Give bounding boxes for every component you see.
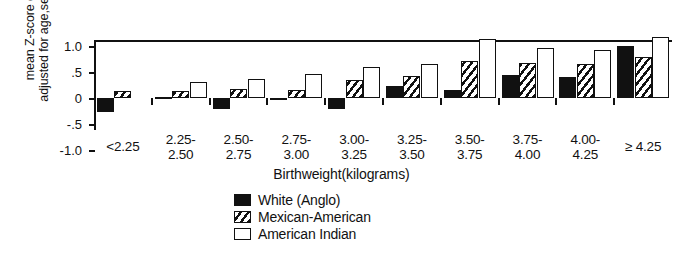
bar-american-indian xyxy=(594,50,611,98)
x-axis-tick-label: 3.75-4.00 xyxy=(499,133,557,162)
legend-swatch-white-anglo xyxy=(234,194,251,206)
x-axis-tick-label-line-2: 4.25 xyxy=(556,148,614,163)
legend-item-mexican-american: Mexican-American xyxy=(234,209,371,225)
legend-label-white-anglo: White (Anglo) xyxy=(258,193,340,207)
bar-white-anglo xyxy=(386,86,403,98)
bar-mexican-american xyxy=(230,89,247,98)
x-axis-tick-label-line-2: 3.00 xyxy=(267,148,325,163)
y-axis-tick-label: -.5 xyxy=(67,118,82,131)
chart-legend: White (Anglo)Mexican-AmericanAmerican In… xyxy=(234,192,371,242)
bar-white-anglo xyxy=(155,97,172,99)
bar-american-indian xyxy=(248,79,265,98)
bar-mexican-american xyxy=(288,90,305,98)
plot-area: 1.0.50-.5-1.0 xyxy=(94,40,672,130)
y-axis-line xyxy=(94,40,96,130)
bar-white-anglo xyxy=(617,46,634,98)
x-axis-tick-label: 2.25-2.50 xyxy=(152,133,210,162)
bar-white-anglo xyxy=(270,98,287,100)
bar-mexican-american xyxy=(519,63,536,98)
x-axis-tick-label-line-1: 3.50- xyxy=(441,133,499,148)
y-axis-tick: 1.0 xyxy=(89,46,95,48)
group-separator-tick xyxy=(440,98,442,105)
x-axis-tick-label-line-2: 3.50 xyxy=(383,148,441,163)
x-axis-tick-label-line-1: 2.75- xyxy=(267,133,325,148)
bar-american-indian xyxy=(652,37,669,98)
x-axis-tick-label-line-2: 3.25 xyxy=(325,148,383,163)
bar-mexican-american xyxy=(577,64,594,98)
bar-white-anglo xyxy=(328,98,345,109)
x-axis-tick-label: <2.25 xyxy=(94,140,152,155)
bar-american-indian xyxy=(479,39,496,98)
x-axis-tick-label-line-2: 3.75 xyxy=(441,148,499,163)
bar-white-anglo xyxy=(444,90,461,98)
bar-american-indian xyxy=(537,48,554,98)
x-axis-title: Birthweight(kilograms) xyxy=(0,166,683,182)
group-separator-tick xyxy=(209,98,211,105)
y-axis-tick-label: 1.0 xyxy=(64,40,82,53)
bar-white-anglo xyxy=(559,77,576,98)
bar-american-indian xyxy=(190,82,207,98)
legend-swatch-mexican-american xyxy=(234,211,251,223)
legend-item-white-anglo: White (Anglo) xyxy=(234,192,371,208)
y-axis-title: mean Z-score of weight adjusted for age,… xyxy=(14,0,60,131)
x-axis-tick-label-line-1: 3.75- xyxy=(499,133,557,148)
x-axis-tick-label: 2.50-2.75 xyxy=(210,133,268,162)
x-axis-tick-label-line-1: 4.00- xyxy=(556,133,614,148)
x-axis-tick-label: 3.00-3.25 xyxy=(325,133,383,162)
bar-mexican-american xyxy=(461,61,478,98)
x-axis-tick-label-line-1: <2.25 xyxy=(94,140,152,155)
x-axis-baseline xyxy=(94,40,672,42)
legend-swatch-american-indian xyxy=(234,228,251,240)
bar-mexican-american xyxy=(172,91,189,98)
y-axis-title-line-2: adjusted for age,sex,and length xyxy=(37,0,51,102)
bar-american-indian xyxy=(421,64,438,98)
bar-white-anglo xyxy=(97,98,114,112)
x-axis-tick-label-line-1: ≥ 4.25 xyxy=(614,140,672,155)
group-separator-tick xyxy=(555,98,557,105)
x-axis-tick-label: 4.00-4.25 xyxy=(556,133,614,162)
x-axis-tick-label-line-2: 2.50 xyxy=(152,148,210,163)
x-axis-tick-label-line-1: 3.00- xyxy=(325,133,383,148)
group-separator-tick xyxy=(382,98,384,105)
bar-white-anglo xyxy=(213,98,230,109)
legend-label-mexican-american: Mexican-American xyxy=(258,210,371,224)
group-separator-tick xyxy=(498,98,500,105)
group-separator-tick xyxy=(266,98,268,105)
bar-american-indian xyxy=(363,67,380,98)
legend-label-american-indian: American Indian xyxy=(258,227,356,241)
y-axis-tick-label: -1.0 xyxy=(60,144,82,157)
bar-mexican-american xyxy=(346,80,363,98)
bar-chart-figure: mean Z-score of weight adjusted for age,… xyxy=(0,0,683,267)
x-axis-tick-label-line-2: 4.00 xyxy=(499,148,557,163)
group-separator-tick xyxy=(613,98,615,105)
y-axis-title-line-1: mean Z-score of weight xyxy=(23,0,37,80)
y-axis-tick-label: 0 xyxy=(75,92,82,105)
group-separator-tick xyxy=(151,98,153,105)
group-separator-tick xyxy=(324,98,326,105)
x-axis-tick-label: ≥ 4.25 xyxy=(614,140,672,155)
x-axis-tick-label-line-2: 2.75 xyxy=(210,148,268,163)
bar-white-anglo xyxy=(502,75,519,98)
bar-mexican-american xyxy=(114,91,131,98)
x-axis-tick-label-line-1: 2.50- xyxy=(210,133,268,148)
y-axis-tick: .5 xyxy=(89,72,95,74)
legend-item-american-indian: American Indian xyxy=(234,226,371,242)
bar-mexican-american xyxy=(403,76,420,98)
x-axis-tick-label-line-1: 2.25- xyxy=(152,133,210,148)
y-axis-tick: 0 xyxy=(89,98,95,100)
y-axis-tick: -.5 xyxy=(89,124,95,126)
x-axis-tick-label-line-1: 3.25- xyxy=(383,133,441,148)
x-axis-tick-label: 3.50-3.75 xyxy=(441,133,499,162)
x-axis-tick-label: 3.25-3.50 xyxy=(383,133,441,162)
bar-american-indian xyxy=(305,74,322,98)
x-axis-tick-label: 2.75-3.00 xyxy=(267,133,325,162)
bar-mexican-american xyxy=(635,57,652,98)
y-axis-tick-label: .5 xyxy=(71,66,82,79)
